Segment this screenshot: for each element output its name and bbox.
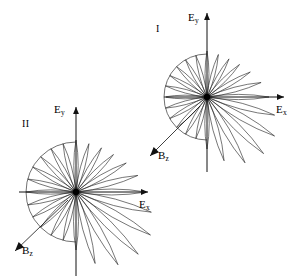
panel-2-y-axis-label-subscript: y (61, 108, 65, 117)
panel-2-x-axis-label-text: E (139, 198, 146, 210)
panel-1-origin-hub (204, 94, 210, 100)
panel-2-bz-label-text: B (22, 244, 29, 256)
panel-1-y-axis-label: Ey (188, 12, 199, 24)
panel-2-y-axis-arrow-icon (73, 107, 79, 114)
panel-1-x-axis-arrow-icon (277, 94, 284, 100)
panel-2-lobes (26, 140, 151, 265)
panel-1-lobes (164, 51, 275, 163)
panel-2-x-axis-label-subscript: x (146, 203, 150, 212)
panel-1-group (150, 13, 284, 172)
panel-1-y-axis-label-subscript: y (195, 16, 199, 25)
panel-2-y-axis-label-text: E (54, 103, 61, 115)
panel-1-lobe (207, 97, 264, 154)
panel-1-x-axis-label: Ex (276, 104, 287, 116)
panel-2-origin-hub (73, 189, 79, 195)
panel-2-lobe (76, 192, 138, 254)
diagram-canvas (0, 0, 301, 280)
panel-2-bz-label: Bz (22, 245, 33, 257)
panel-2-lobe (41, 157, 76, 192)
panel-1-bz-label-text: B (158, 149, 165, 161)
panel-1-y-axis-label-text: E (188, 11, 195, 23)
panel-2-x-axis-label: Ex (139, 199, 150, 211)
panel-1-y-axis-arrow-icon (204, 13, 210, 20)
panel-1-x-axis-label-text: E (276, 103, 283, 115)
panel-2-x-axis-arrow-icon (141, 189, 148, 195)
panel-2-bz-label-subscript: z (30, 249, 33, 258)
panel-1-bz-label-subscript: z (166, 154, 169, 163)
panel-1-roman-numeral-label: I (156, 24, 160, 34)
panel-2-group (15, 107, 151, 276)
panel-1-bz-label: Bz (158, 150, 169, 162)
panel-1-lobe (177, 67, 207, 97)
panel-2-y-axis-label: Ey (54, 104, 65, 116)
figure-root: I Ex Ey Bz II Ex Ey Bz (0, 0, 301, 280)
panel-2-roman-numeral-label: II (22, 119, 29, 129)
panel-1-x-axis-label-subscript: x (283, 108, 287, 117)
panel-1-lobe (177, 97, 207, 127)
